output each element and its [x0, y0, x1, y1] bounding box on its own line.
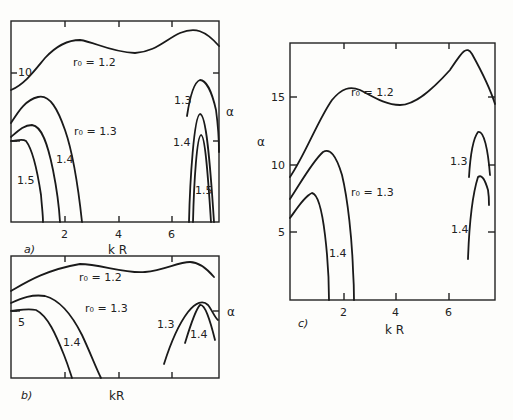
- c-label-h14: 1.4: [451, 223, 469, 236]
- c-ylabel: α: [257, 135, 265, 149]
- a-x-tick-4: 4: [115, 228, 122, 241]
- curve-c-r13: [290, 151, 354, 300]
- a-label-r13: r₀ = 1.3: [74, 125, 117, 138]
- c-y-tick-15: 15: [271, 91, 285, 104]
- c-label-h13: 1.3: [450, 155, 468, 168]
- curve-c-h13: [469, 132, 490, 177]
- c-x-tick-6: 6: [445, 306, 452, 319]
- panel-a-ticks: [11, 21, 219, 222]
- c-label-r13: r₀ = 1.3: [351, 186, 394, 199]
- a-label-10: 10: [18, 66, 32, 79]
- b-panel-label: b): [21, 389, 32, 402]
- a-x-tick-2: 2: [61, 228, 68, 241]
- b-label-h14: 1.4: [190, 328, 208, 341]
- c-label-14: 1.4: [329, 247, 347, 260]
- panel-a: 10 r₀ = 1.2 r₀ = 1.3 1.4 1.5 1.3 1.4 1.5…: [11, 21, 234, 257]
- b-label-5: 5: [18, 316, 25, 329]
- a-ylabel: α: [226, 105, 234, 119]
- a-label-h15: 1.5: [195, 184, 213, 197]
- panel-c-frame: [290, 43, 495, 300]
- panel-c: r₀ = 1.2 r₀ = 1.3 1.4 1.3 1.4 15 10 5 α …: [257, 43, 495, 337]
- b-ylabel: α: [227, 305, 235, 319]
- panel-a-frame: [11, 21, 219, 222]
- a-panel-label: a): [24, 243, 35, 256]
- c-label-r12: r₀ = 1.2: [351, 86, 394, 99]
- c-xlabel: k R: [385, 323, 404, 337]
- b-label-h13: 1.3: [157, 318, 175, 331]
- b-label-14: 1.4: [63, 336, 81, 349]
- panel-b: r₀ = 1.2 r₀ = 1.3 5 1.4 1.3 1.4 α b) kR: [11, 256, 235, 403]
- panel-c-ticks: [290, 43, 495, 300]
- b-xlabel: kR: [109, 389, 124, 403]
- curve-c-h14: [468, 176, 489, 259]
- c-x-tick-4: 4: [392, 306, 399, 319]
- curve-c-14: [290, 193, 329, 300]
- c-y-tick-10: 10: [271, 159, 285, 172]
- b-label-r13: r₀ = 1.3: [85, 302, 128, 315]
- a-xlabel: k R: [108, 243, 127, 257]
- a-label-h13: 1.3: [174, 94, 192, 107]
- a-label-15: 1.5: [17, 174, 35, 187]
- b-label-r12: r₀ = 1.2: [79, 271, 122, 284]
- figure: 10 r₀ = 1.2 r₀ = 1.3 1.4 1.5 1.3 1.4 1.5…: [0, 0, 513, 420]
- a-label-14: 1.4: [56, 153, 74, 166]
- c-panel-label: c): [298, 317, 308, 330]
- c-y-tick-5: 5: [278, 226, 285, 239]
- c-x-tick-2: 2: [340, 306, 347, 319]
- a-label-h14: 1.4: [173, 136, 191, 149]
- a-label-r12: r₀ = 1.2: [73, 56, 116, 69]
- a-x-tick-6: 6: [168, 228, 175, 241]
